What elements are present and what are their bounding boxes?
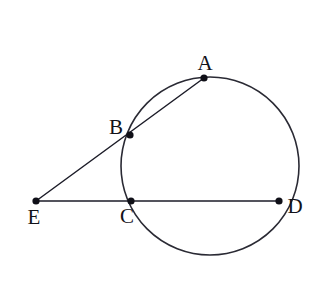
point-a-dot xyxy=(200,74,207,81)
point-b-dot xyxy=(126,131,133,138)
main-circle xyxy=(121,77,299,255)
geometry-figure: A B C D E xyxy=(0,0,324,289)
point-e-dot xyxy=(32,197,39,204)
point-label-e: E xyxy=(28,205,41,229)
point-label-b: B xyxy=(109,115,123,139)
secant-line-e-a xyxy=(36,78,204,201)
point-label-a: A xyxy=(197,51,213,75)
geometry-canvas: A B C D E xyxy=(0,0,324,289)
point-label-c: C xyxy=(120,204,134,228)
point-d-dot xyxy=(275,197,282,204)
point-label-d: D xyxy=(287,194,302,218)
